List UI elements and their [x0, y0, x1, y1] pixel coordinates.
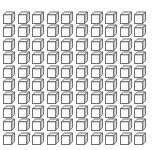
cube-grid: [2, 11, 148, 145]
cube-icon: [119, 78, 134, 91]
cube-icon: [104, 65, 119, 78]
cube-icon: [133, 11, 148, 24]
cube-icon: [2, 24, 17, 37]
cube-icon: [75, 51, 90, 64]
cube-icon: [90, 11, 105, 24]
cube-icon: [104, 38, 119, 51]
cube-icon: [90, 78, 105, 91]
cube-icon: [2, 38, 17, 51]
cube-icon: [75, 118, 90, 131]
cube-icon: [17, 78, 32, 91]
cube-icon: [60, 65, 75, 78]
cube-icon: [46, 51, 61, 64]
cube-icon: [104, 105, 119, 118]
cube-icon: [46, 11, 61, 24]
cube-icon: [119, 132, 134, 145]
cube-icon: [119, 11, 134, 24]
cube-icon: [90, 24, 105, 37]
cube-icon: [75, 11, 90, 24]
cube-icon: [17, 91, 32, 104]
cube-icon: [46, 65, 61, 78]
cube-icon: [17, 24, 32, 37]
cube-icon: [2, 91, 17, 104]
cube-icon: [133, 78, 148, 91]
cube-icon: [90, 91, 105, 104]
cube-icon: [60, 105, 75, 118]
cube-icon: [60, 38, 75, 51]
cube-icon: [31, 65, 46, 78]
cube-icon: [90, 38, 105, 51]
cube-icon: [60, 91, 75, 104]
cube-icon: [2, 51, 17, 64]
cube-icon: [104, 132, 119, 145]
cube-icon: [75, 38, 90, 51]
cube-icon: [104, 78, 119, 91]
cube-icon: [60, 24, 75, 37]
cube-icon: [31, 24, 46, 37]
cube-icon: [133, 51, 148, 64]
cube-icon: [46, 132, 61, 145]
cube-icon: [46, 38, 61, 51]
cube-icon: [46, 91, 61, 104]
cube-icon: [75, 132, 90, 145]
cube-icon: [46, 24, 61, 37]
cube-icon: [75, 78, 90, 91]
cube-icon: [31, 118, 46, 131]
cube-icon: [104, 11, 119, 24]
cube-icon: [133, 132, 148, 145]
cube-icon: [46, 118, 61, 131]
cube-icon: [17, 51, 32, 64]
cube-icon: [46, 78, 61, 91]
cube-icon: [119, 65, 134, 78]
cube-icon: [119, 105, 134, 118]
cube-icon: [2, 105, 17, 118]
cube-icon: [119, 91, 134, 104]
cube-icon: [17, 65, 32, 78]
cube-icon: [31, 91, 46, 104]
cube-icon: [90, 118, 105, 131]
cube-icon: [104, 91, 119, 104]
cube-icon: [2, 11, 17, 24]
cube-icon: [17, 118, 32, 131]
cube-icon: [17, 105, 32, 118]
cube-icon: [75, 91, 90, 104]
cube-icon: [133, 24, 148, 37]
cube-icon: [31, 38, 46, 51]
cube-icon: [75, 24, 90, 37]
cube-icon: [104, 24, 119, 37]
cube-icon: [90, 51, 105, 64]
cube-icon: [31, 132, 46, 145]
cube-icon: [60, 11, 75, 24]
cube-icon: [2, 118, 17, 131]
cube-icon: [75, 65, 90, 78]
cube-icon: [17, 11, 32, 24]
cube-icon: [31, 78, 46, 91]
cube-icon: [17, 38, 32, 51]
cube-icon: [31, 105, 46, 118]
cube-icon: [2, 65, 17, 78]
cube-icon: [46, 105, 61, 118]
cube-icon: [133, 105, 148, 118]
cube-icon: [104, 51, 119, 64]
cube-icon: [60, 51, 75, 64]
cube-icon: [60, 78, 75, 91]
cube-icon: [119, 38, 134, 51]
cube-icon: [133, 38, 148, 51]
cube-icon: [17, 132, 32, 145]
cube-icon: [133, 91, 148, 104]
cube-icon: [60, 118, 75, 131]
cube-icon: [133, 118, 148, 131]
cube-icon: [31, 11, 46, 24]
cube-icon: [2, 78, 17, 91]
cube-icon: [75, 105, 90, 118]
cube-icon: [133, 65, 148, 78]
cube-icon: [90, 105, 105, 118]
cube-icon: [119, 118, 134, 131]
cube-icon: [31, 51, 46, 64]
cube-icon: [90, 65, 105, 78]
cube-icon: [60, 132, 75, 145]
cube-icon: [90, 132, 105, 145]
cube-icon: [104, 118, 119, 131]
cube-icon: [119, 24, 134, 37]
cube-icon: [119, 51, 134, 64]
